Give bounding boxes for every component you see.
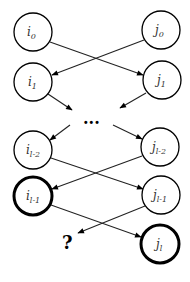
node-jl-1: jl-1: [142, 176, 180, 214]
edge-jl1-question: [78, 206, 145, 233]
edge-ellipsis-il2: [50, 125, 70, 140]
edge-j1-ellipsis: [120, 93, 146, 108]
node-i1: i1: [14, 63, 52, 101]
diagram-canvas: i0 j0 i1 j1 ... il-2 jl-2 il-1 jl-1 jl ?: [0, 0, 190, 282]
node-j1: j1: [143, 61, 181, 99]
node-jl-2: jl-2: [141, 128, 179, 166]
question-mark: ?: [62, 232, 73, 253]
node-il-2: il-2: [14, 131, 52, 169]
node-jl: jl: [141, 225, 179, 263]
edge-i1-ellipsis: [48, 94, 72, 110]
edges: [48, 40, 146, 237]
edge-j0-i1: [52, 40, 144, 75]
ellipsis: ...: [83, 109, 100, 128]
node-i0: i0: [14, 13, 52, 51]
edge-ellipsis-jl2: [113, 125, 142, 139]
node-j0: j0: [142, 11, 180, 49]
node-il-1: il-1: [14, 177, 52, 215]
